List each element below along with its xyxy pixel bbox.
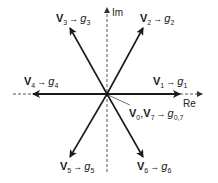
maps-to-arrow-icon: → <box>166 77 175 87</box>
space-vector-diagram: Im Re V3→g3 V2→g2 V4→g4 V1→g1 V0,V7→g0,7… <box>0 0 218 183</box>
vector-v6-arrow <box>107 94 143 157</box>
label-v2: V2→g2 <box>140 12 174 29</box>
label-zero-vectors: V0,V7→g0,7 <box>129 107 183 124</box>
imag-axis-label: Im <box>112 7 123 19</box>
maps-to-arrow-icon: → <box>73 162 82 172</box>
label-v3: V3→g3 <box>56 12 90 29</box>
maps-to-arrow-icon: → <box>157 109 166 119</box>
label-v5: V5→g5 <box>60 160 94 177</box>
vector-v3-arrow <box>70 28 107 94</box>
label-v1: V1→g1 <box>153 75 187 92</box>
label-v4: V4→g4 <box>24 75 58 92</box>
maps-to-arrow-icon: → <box>150 162 159 172</box>
maps-to-arrow-icon: → <box>153 14 162 24</box>
label-v6: V6→g6 <box>137 160 171 177</box>
maps-to-arrow-icon: → <box>37 77 46 87</box>
vector-v5-arrow <box>70 94 107 157</box>
real-axis-label: Re <box>183 98 196 110</box>
maps-to-arrow-icon: → <box>69 14 78 24</box>
origin-point <box>106 93 109 96</box>
vector-v2-arrow <box>107 28 143 94</box>
